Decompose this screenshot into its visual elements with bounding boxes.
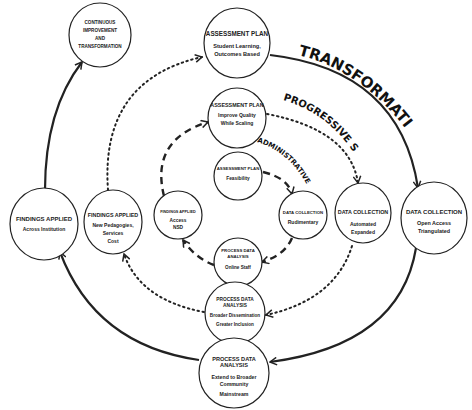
node-title: FINDINGS APPLIED xyxy=(88,212,139,218)
node-line: TRANSFORMATION xyxy=(78,44,122,49)
node-process-data-analysis-inner: PROCESS DATA ANALYSIS Online Staff xyxy=(214,238,262,286)
node-line: Feasibility xyxy=(226,176,250,181)
node-line: Services xyxy=(103,230,124,236)
node-line: Mainstream xyxy=(220,391,249,397)
node-line: Cost xyxy=(107,238,118,244)
arrow-dc-inner-to-pda-inner xyxy=(262,238,292,262)
node-data-collection-middle: DATA COLLECTION Automated Expanded xyxy=(335,183,391,243)
node-line: Rudimentary xyxy=(288,219,319,225)
node-process-data-analysis-middle: PROCESS DATA ANALYSIS Broader Disseminat… xyxy=(205,282,265,344)
arrow-fa-outer-to-continuous xyxy=(45,62,82,190)
node-title: DATA COLLECTION xyxy=(406,209,462,215)
node-findings-applied-inner: FINDINGS APPLIED Access NSD xyxy=(154,191,202,239)
node-line: Expanded xyxy=(351,229,375,235)
node-line: IMPROVEMENT xyxy=(83,28,117,33)
node-line: Broader Dissemination xyxy=(210,313,260,318)
node-data-collection-inner: DATA COLLECTION Rudimentary xyxy=(279,191,327,239)
node-continuous-improvement: CONTINUOUS IMPROVEMENT AND TRANSFORMATIO… xyxy=(69,3,131,67)
node-line: AND xyxy=(95,36,106,41)
node-line: Online Staff xyxy=(225,265,251,270)
node-findings-applied-outer: FINDINGS APPLIED Across Institution xyxy=(10,188,78,260)
node-assessment-plan-inner: ASSESSMENT PLAN Feasibility xyxy=(214,152,262,200)
node-title: ASSESSMENT PLAN xyxy=(210,102,263,108)
node-line: CONTINUOUS xyxy=(85,20,116,25)
node-line: Greater Inclusion xyxy=(216,322,254,327)
node-line: Improve Quality xyxy=(218,112,256,118)
node-line: Student Learning, xyxy=(213,43,261,49)
node-process-data-analysis-outer: PROCESS DATA ANALYSIS Extend to Broader … xyxy=(199,338,269,408)
node-data-collection-outer: DATA COLLECTION Open Access Triangulated xyxy=(401,182,467,254)
node-title: PROCESS DATA xyxy=(216,297,254,302)
node-line: NSD xyxy=(173,225,184,230)
node-title: DATA COLLECTION xyxy=(338,209,389,215)
node-line: New Pedagogies, xyxy=(92,222,134,228)
node-title: DATA COLLECTION xyxy=(283,210,323,215)
node-title: ANALYSIS xyxy=(223,303,248,308)
node-title: PROCESS DATA xyxy=(221,248,255,253)
node-line: Across Institution xyxy=(23,226,66,232)
node-line: While Scaling xyxy=(221,120,254,126)
node-line: Outcomes Based xyxy=(214,51,260,57)
arrow-ap-inner-to-dc-inner xyxy=(263,172,292,194)
node-title: ASSESSMENT PLAN xyxy=(206,30,269,37)
node-line: Automated xyxy=(350,221,376,227)
node-line: Triangulated xyxy=(418,228,450,234)
node-title: ASSESSMENT PLAN xyxy=(217,166,260,171)
node-assessment-plan-middle: ASSESSMENT PLAN Improve Quality While Sc… xyxy=(208,88,266,148)
node-title: FINDINGS APPLIED xyxy=(16,216,73,222)
assessment-cycle-diagram: TRANSFORMATIVE STAGE PROGRESSIVE STAGE A… xyxy=(0,0,472,410)
stage-label-progressive: PROGRESSIVE STAGE xyxy=(0,0,361,153)
node-title: FINDINGS APPLIED xyxy=(160,210,196,214)
arrow-pda-inner-to-fa-inner xyxy=(183,240,214,265)
node-assessment-plan-outer: ASSESSMENT PLAN Student Learning, Outcom… xyxy=(204,8,270,78)
node-line: Access xyxy=(170,218,187,223)
node-line: Open Access xyxy=(417,220,451,226)
arrow-fa-middle-to-ap-outer xyxy=(107,57,202,190)
node-title: ANALYSIS xyxy=(227,254,248,259)
node-title: ANALYSIS xyxy=(220,362,248,368)
arrow-pda-middle-to-fa-middle xyxy=(124,254,204,312)
arrow-dc-middle-to-pda-middle xyxy=(266,246,352,315)
node-findings-applied-middle: FINDINGS APPLIED New Pedagogies, Service… xyxy=(84,190,142,254)
arrow-fa-inner-to-ap-middle xyxy=(161,122,208,196)
node-line: Community xyxy=(220,381,249,387)
node-line: Extend to Broader xyxy=(212,374,257,380)
